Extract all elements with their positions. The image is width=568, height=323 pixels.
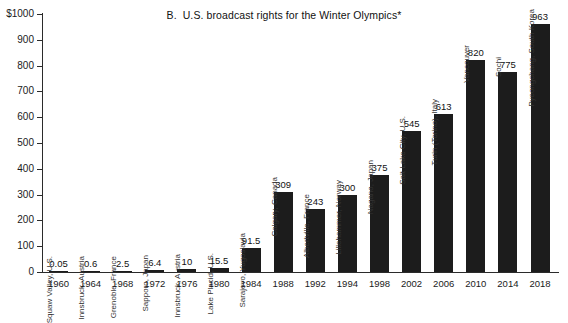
x-axis-tick-label: 2010 [460,278,492,289]
bar-category-label: Squaw Valley, U.S. [46,256,54,323]
y-axis-tick [37,143,43,144]
x-axis-tick-label: 1992 [299,278,331,289]
y-axis-tick-label: $1000 [6,9,34,19]
bar-category-label: Lillehammer, Norway [335,180,343,255]
x-axis-tick-label: 1984 [235,278,267,289]
y-axis-tick-label: 300 [17,190,34,200]
x-axis-tick-label: 2006 [428,278,460,289]
bar [466,60,485,272]
y-axis-tick [37,66,43,67]
y-axis-tick [37,246,43,247]
bar-category-label: Sochi [495,57,503,77]
bar [498,72,517,272]
x-axis-tick-label: 1994 [331,278,363,289]
y-axis-tick-label: 200 [17,215,34,225]
x-axis-tick-label: 2014 [492,278,524,289]
chart-title: B. U.S. broadcast rights for the Winter … [0,9,568,21]
y-axis-tick [37,169,43,170]
x-axis-tick-label: 2018 [524,278,556,289]
bar-category-label: Calgary, Canada [271,177,279,236]
x-axis-line [42,272,559,273]
x-axis-tick-label: 1960 [43,278,75,289]
y-axis-tick [37,195,43,196]
y-axis-tick-label: 600 [17,112,34,122]
y-axis-tick-label: 700 [17,86,34,96]
y-axis-tick [37,14,43,15]
y-axis-tick-label: 100 [17,241,34,251]
y-axis-tick [37,117,43,118]
x-axis-tick-label: 1972 [139,278,171,289]
y-axis-tick [37,272,43,273]
y-axis-tick [37,91,43,92]
y-axis-tick [37,40,43,41]
y-axis-tick-label: 500 [17,138,34,148]
bar-category-label: Vancouver [463,45,471,83]
x-axis-tick-label: 1964 [75,278,107,289]
y-axis-tick [37,220,43,221]
x-axis-tick-label: 2002 [396,278,428,289]
bar-category-label: Salt Lake City, U.S. [399,116,407,185]
bar-category-label: Turin (Torino), Italy [431,99,439,165]
x-axis-tick-label: 1980 [203,278,235,289]
bar-category-label: Sarajevo, Yugoslavia [239,233,247,308]
y-axis-tick-label: 900 [17,35,34,45]
y-axis-tick-label: 0 [28,267,34,277]
x-axis-tick-label: 1976 [171,278,203,289]
bar-category-label: Nagano, Japan [367,160,375,214]
y-axis-tick-label: 800 [17,61,34,71]
x-axis-tick-label: 1968 [107,278,139,289]
x-axis-tick-label: 1988 [267,278,299,289]
y-axis-tick-label: 400 [17,164,34,174]
bar-category-label: Pyeongchang, South Korea [528,9,536,107]
bar-category-label: Albertville, France [303,194,311,258]
x-axis-tick-label: 1998 [364,278,396,289]
